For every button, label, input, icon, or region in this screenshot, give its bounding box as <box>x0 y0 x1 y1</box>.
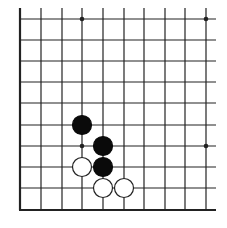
grid-lines <box>19 8 216 210</box>
star-point-icon <box>80 17 85 22</box>
star-point-icon <box>204 17 209 22</box>
black-stone <box>73 116 92 135</box>
black-stone <box>94 158 113 177</box>
star-point-icon <box>204 144 209 149</box>
white-stone <box>115 179 134 198</box>
black-stone <box>94 137 113 156</box>
star-point-icon <box>80 144 85 149</box>
white-stone <box>73 158 92 177</box>
white-stone <box>94 179 113 198</box>
go-board <box>0 0 227 228</box>
